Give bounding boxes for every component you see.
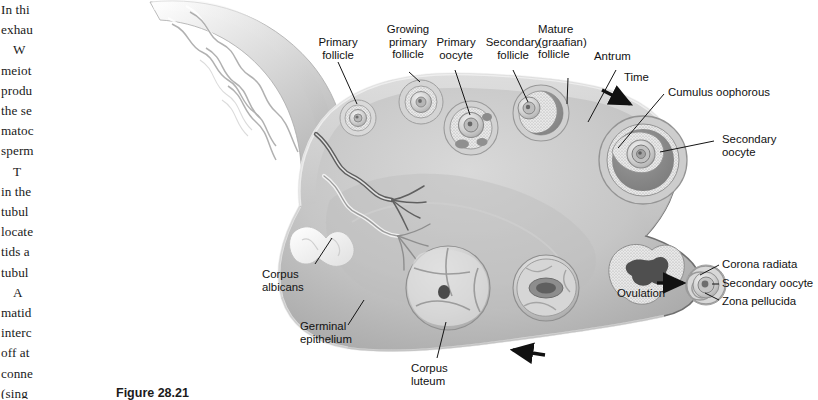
- follicle-mature-graafian: [599, 116, 687, 204]
- follicle-growing-primary: [399, 80, 443, 124]
- figure-caption: Figure 28.21: [116, 386, 189, 400]
- label-time: Time: [624, 71, 664, 84]
- follicle-antral: [513, 85, 569, 141]
- label-secondary-oocyte-ovulated: Secondary oocyte: [722, 277, 818, 290]
- label-germinal-epithelium: Germinal epithelium: [300, 320, 376, 345]
- label-ovulation: Ovulation: [617, 287, 681, 300]
- label-zona-pellucida: Zona pellucida: [722, 295, 818, 308]
- follicle-primary: [340, 100, 376, 136]
- follicle-secondary: [444, 101, 498, 155]
- label-secondary-oocyte-right: Secondary oocyte: [722, 133, 812, 158]
- label-primary-follicle: Primary follicle: [302, 36, 374, 61]
- corpus-luteum-structure: [406, 246, 490, 330]
- label-corpus-albicans: Corpus albicans: [262, 268, 328, 293]
- label-cumulus-oophorous: Cumulus oophorous: [668, 86, 818, 99]
- label-corpus-luteum: Corpus luteum: [411, 362, 471, 387]
- ovulated-oocyte: [686, 265, 726, 305]
- label-antrum: Antrum: [594, 50, 654, 63]
- corpus-luteum-regressing: [513, 255, 579, 321]
- label-corona-radiata: Corona radiata: [722, 258, 818, 271]
- cycle-arrow: [513, 350, 545, 355]
